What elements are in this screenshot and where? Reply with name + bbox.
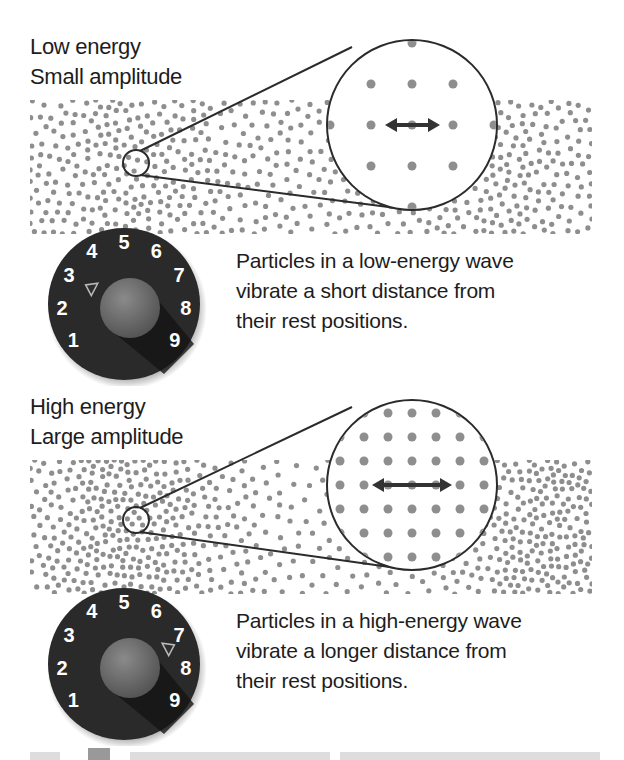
- magnifier-high: [0, 360, 624, 600]
- dial-number: 2: [57, 657, 68, 679]
- dial-number: 3: [63, 624, 74, 646]
- dial-number: 9: [169, 689, 180, 711]
- cropped-next-text: [0, 744, 624, 760]
- dial-number: 8: [180, 657, 191, 679]
- dial-number: 1: [68, 689, 79, 711]
- dial-number: 6: [151, 600, 162, 622]
- energy-dial-high[interactable]: 123456789: [42, 582, 206, 746]
- dial-number: 7: [173, 624, 184, 646]
- description-line: Particles in a high-energy wave: [236, 606, 522, 636]
- dial-number: 5: [118, 591, 129, 613]
- dial-number: 4: [86, 600, 98, 622]
- high-energy-description: Particles in a high-energy wave vibrate …: [236, 606, 522, 696]
- description-line: their rest positions.: [236, 666, 522, 696]
- description-line: vibrate a longer distance from: [236, 636, 522, 666]
- high-energy-panel: High energy Large amplitude 123456789 Pa…: [0, 0, 624, 760]
